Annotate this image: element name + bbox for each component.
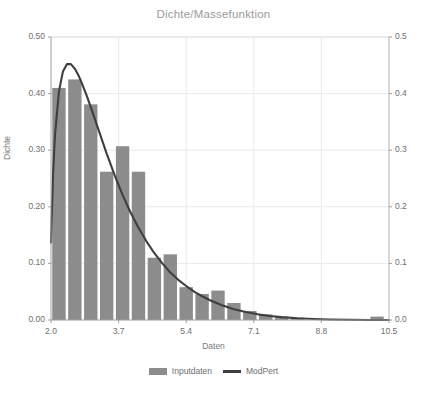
plot-area bbox=[0, 0, 427, 397]
chart-legend: Inputdaten ModPert bbox=[0, 366, 427, 376]
y-tick-right-1: 0.1 bbox=[395, 257, 407, 267]
y-tick-right-0: 0.0 bbox=[395, 314, 407, 324]
x-tick-3: 7.1 bbox=[234, 326, 274, 336]
legend-item-modpert: ModPert bbox=[223, 366, 278, 376]
x-tick-4: 8.8 bbox=[301, 326, 341, 336]
x-tick-2: 5.4 bbox=[166, 326, 206, 336]
legend-label-inputdaten: Inputdaten bbox=[172, 366, 212, 376]
y-tick-left-4: 0.40 bbox=[0, 88, 45, 98]
x-tick-0: 2.0 bbox=[31, 326, 71, 336]
y-tick-right-2: 0.2 bbox=[395, 201, 407, 211]
legend-label-modpert: ModPert bbox=[246, 366, 278, 376]
y-tick-left-2: 0.20 bbox=[0, 201, 45, 211]
y-tick-left-1: 0.10 bbox=[0, 257, 45, 267]
x-tick-5: 10.5 bbox=[369, 326, 409, 336]
y-tick-right-3: 0.3 bbox=[395, 144, 407, 154]
bar-series-inputdaten bbox=[52, 79, 383, 320]
y-tick-left-5: 0.50 bbox=[0, 31, 45, 41]
bar-swatch-icon bbox=[149, 368, 167, 375]
legend-item-inputdaten: Inputdaten bbox=[149, 366, 212, 376]
y-tick-left-3: 0.30 bbox=[0, 144, 45, 154]
y-tick-right-5: 0.5 bbox=[395, 31, 407, 41]
y-tick-right-4: 0.4 bbox=[395, 88, 407, 98]
y-tick-left-0: 0.00 bbox=[0, 314, 45, 324]
chart-container: Dichte/Massefunktion Dichte Daten 0.000.… bbox=[0, 0, 427, 397]
line-swatch-icon bbox=[223, 370, 241, 373]
axis-frame bbox=[48, 37, 392, 323]
x-tick-1: 3.7 bbox=[99, 326, 139, 336]
